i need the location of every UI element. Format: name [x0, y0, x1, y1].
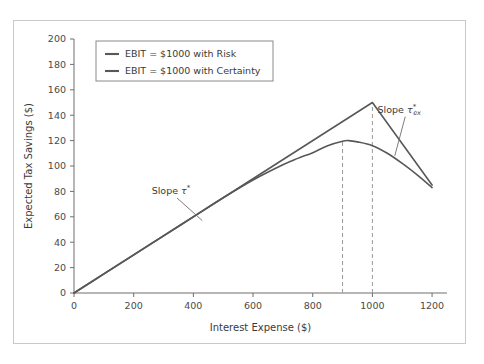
x-tick-label: 400: [184, 300, 202, 311]
y-tick-label: 60: [54, 211, 66, 222]
y-tick-label: 200: [48, 33, 66, 44]
chart-screenshot: 0204060801001201401601802000200400600800…: [0, 0, 484, 364]
y-tick-label: 20: [54, 262, 66, 273]
y-tick-label: 140: [48, 110, 66, 121]
y-tick-label: 0: [60, 287, 66, 298]
legend-label-1: EBIT = $1000 with Certainty: [125, 65, 261, 76]
y-tick-label: 180: [48, 59, 66, 70]
x-tick-label: 800: [304, 300, 322, 311]
slope-tau-star-ex-label: Slope τ*ex: [378, 103, 422, 117]
figure-frame: 0204060801001201401601802000200400600800…: [13, 20, 466, 344]
series-line-1: [74, 103, 432, 294]
slope-tau-star-label: Slope τ*: [152, 184, 191, 196]
y-tick-label: 160: [48, 84, 66, 95]
y-axis-title: Expected Tax Savings ($): [23, 103, 34, 229]
x-axis-title: Interest Expense ($): [210, 322, 312, 333]
series-line-0: [74, 141, 432, 293]
y-tick-label: 80: [54, 186, 66, 197]
y-tick-label: 120: [48, 135, 66, 146]
x-tick-label: 200: [125, 300, 143, 311]
x-tick-label: 1000: [360, 300, 384, 311]
chart-canvas: 0204060801001201401601802000200400600800…: [14, 21, 465, 343]
legend-label-0: EBIT = $1000 with Risk: [125, 48, 237, 59]
x-tick-label: 600: [244, 300, 262, 311]
y-tick-label: 100: [48, 160, 66, 171]
x-tick-label: 0: [71, 300, 77, 311]
slope-tau-star-leader: [177, 198, 202, 221]
y-tick-label: 40: [54, 237, 66, 248]
x-tick-label: 1200: [420, 300, 444, 311]
